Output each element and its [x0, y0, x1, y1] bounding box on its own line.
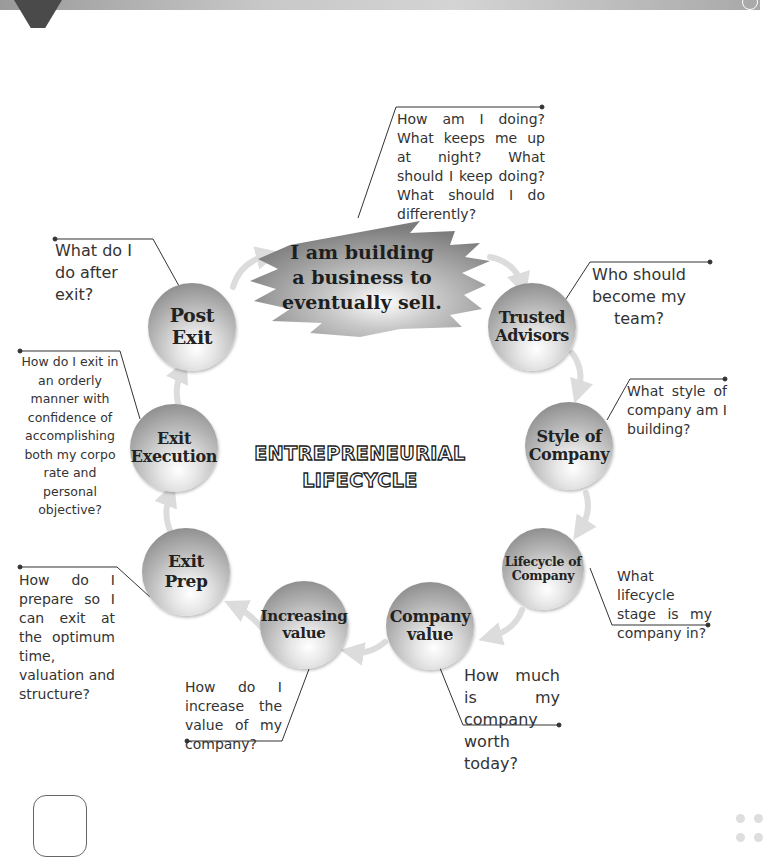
stage-exit-prep: Exit Prep — [142, 528, 230, 616]
stage-question-trusted-advisors: Who should become my team? — [583, 264, 695, 330]
center-question: How am I doing? What keeps me up at nigh… — [397, 110, 545, 224]
center-statement-label: I am building a business to eventually s… — [282, 240, 442, 315]
stage-increasing-value: Increasing value — [260, 581, 348, 669]
stage-label: Exit Execution — [131, 430, 217, 467]
stage-label: Company value — [390, 608, 471, 645]
stage-label: Style of Company — [529, 428, 610, 465]
stage-question-exit-prep: How do I prepare so I can exit at the op… — [19, 571, 115, 704]
stage-exit-execution: Exit Execution — [130, 404, 218, 492]
stage-question-exit-execution: How do I exit in an orderly manner with … — [18, 353, 122, 520]
stage-lifecycle-of-company: Lifecycle of Company — [502, 528, 584, 610]
stage-question-post-exit: What do I do after exit? — [55, 240, 155, 306]
stage-question-company-value: How much is my company worth today? — [464, 665, 560, 775]
stage-label: Exit Prep — [164, 552, 207, 591]
stage-question-lifecycle-of-company: What lifecycle stage is my company in? — [617, 567, 712, 643]
stage-post-exit: Post Exit — [148, 283, 236, 371]
stage-question-style-of-company: What style of company am I building? — [627, 382, 727, 439]
stage-question-increasing-value: How do I increase the value of my compan… — [185, 678, 282, 754]
stage-label: Lifecycle of Company — [505, 555, 582, 584]
stage-trusted-advisors: Trusted Advisors — [488, 283, 576, 371]
dots-decoration-icon — [736, 814, 767, 848]
stage-label: Increasing value — [261, 608, 348, 643]
stage-label: Trusted Advisors — [495, 309, 569, 346]
center-statement: I am building a business to eventually s… — [250, 215, 490, 340]
diagram-title: ENTREPRENEURIAL LIFECYCLE — [228, 440, 492, 494]
bottom-box-decoration — [33, 795, 87, 857]
stage-style-of-company: Style of Company — [525, 402, 613, 490]
stage-company-value: Company value — [386, 582, 474, 670]
stage-label: Post Exit — [170, 305, 215, 349]
